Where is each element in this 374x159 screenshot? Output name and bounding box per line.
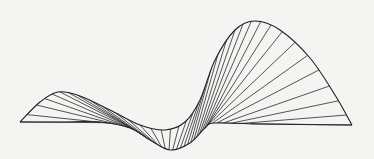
ruling-line — [128, 119, 154, 142]
upper-guide-curve — [20, 21, 352, 130]
ruling-lines — [20, 21, 352, 150]
ruling-line — [212, 55, 307, 123]
ruling-line — [161, 130, 165, 149]
lower-guide-curve — [20, 122, 352, 150]
ruling-line — [169, 129, 171, 150]
ruling-line — [217, 70, 319, 123]
ruling-line — [242, 115, 347, 123]
ruling-line — [60, 92, 133, 129]
ruling-line — [208, 32, 282, 125]
ruling-line — [206, 22, 260, 127]
ruled-surface-drawing — [0, 0, 374, 159]
string-art-figure — [0, 0, 374, 159]
ruling-line — [207, 25, 271, 126]
ruling-line — [173, 126, 179, 150]
